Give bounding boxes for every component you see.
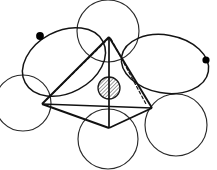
lobe-bottom-right (145, 94, 207, 156)
marker-right (202, 56, 209, 63)
frame-dashed-group (47, 38, 146, 104)
edge-left-right (42, 104, 152, 108)
lobe-top (77, 0, 139, 62)
figure-canvas (0, 0, 217, 170)
orbital-diagram-svg (0, 0, 217, 170)
lobe-right (117, 28, 214, 100)
marker-upper-left (36, 32, 44, 40)
edge-left-front (42, 104, 109, 128)
